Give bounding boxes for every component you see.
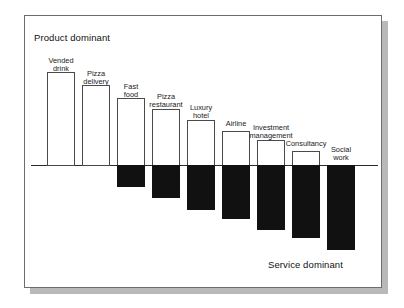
service-dominant-caption: Service dominant — [268, 259, 343, 270]
product-dominant-caption: Product dominant — [34, 32, 110, 43]
figure-panel — [24, 15, 382, 288]
